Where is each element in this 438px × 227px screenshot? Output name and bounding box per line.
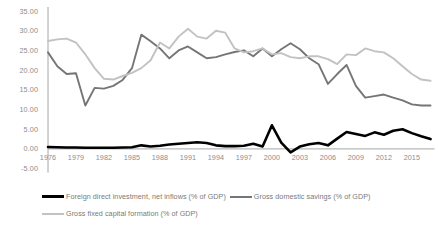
legend-row: Foreign direct investment, net inflows (…: [0, 188, 438, 205]
y-tick-label: 5.00: [4, 125, 38, 134]
series-line-1: [48, 35, 431, 106]
series-line-2: [48, 29, 431, 81]
x-tick-label: 1997: [229, 153, 259, 162]
y-tick-label: 15.00: [4, 85, 38, 94]
x-tick-label: 2012: [369, 153, 399, 162]
legend-label: Foreign direct investment, net inflows (…: [66, 192, 226, 201]
y-tick-label: 10.00: [4, 105, 38, 114]
legend-swatch-icon: [42, 213, 64, 215]
y-tick-label: 25.00: [4, 46, 38, 55]
y-tick-label: 30.00: [4, 26, 38, 35]
y-tick-label: 20.00: [4, 66, 38, 75]
legend-label: Gross domestic savings (% of GDP): [254, 192, 371, 201]
x-tick-label: 2009: [341, 153, 371, 162]
chart-legend: Foreign direct investment, net inflows (…: [0, 188, 438, 222]
legend-label: Gross fixed capital formation (% of GDP): [66, 209, 198, 218]
y-tick-label: -5.00: [4, 164, 38, 173]
x-tick-label: 1982: [89, 153, 119, 162]
x-tick-label: 1985: [117, 153, 147, 162]
legend-swatch-icon: [230, 196, 252, 198]
x-tick-label: 1991: [173, 153, 203, 162]
legend-row: Gross fixed capital formation (% of GDP): [0, 205, 438, 222]
x-tick-label: 2006: [313, 153, 343, 162]
legend-entry[interactable]: Foreign direct investment, net inflows (…: [42, 192, 226, 201]
x-tick-label: 2003: [285, 153, 315, 162]
series-line-0: [48, 125, 431, 152]
x-tick-label: 2000: [257, 153, 287, 162]
x-tick-label: 1979: [61, 153, 91, 162]
chart-container: 35.0030.0025.0020.0015.0010.005.000.00-5…: [0, 0, 438, 227]
legend-entry[interactable]: Gross fixed capital formation (% of GDP): [42, 209, 198, 218]
x-tick-label: 1976: [33, 153, 63, 162]
y-tick-label: 35.00: [4, 7, 38, 16]
legend-swatch-icon: [42, 195, 64, 198]
x-tick-label: 1994: [201, 153, 231, 162]
legend-entry[interactable]: Gross domestic savings (% of GDP): [230, 192, 371, 201]
x-tick-label: 1988: [145, 153, 175, 162]
x-tick-label: 2015: [397, 153, 427, 162]
